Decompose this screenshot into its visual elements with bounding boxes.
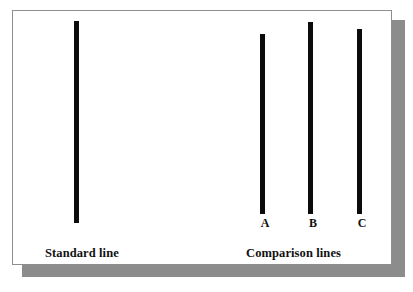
standard-line-caption: Standard line bbox=[45, 246, 119, 260]
comparison-line-bar-a bbox=[260, 34, 265, 214]
comparison-line-bar-b bbox=[308, 22, 313, 214]
stimulus-area: A B C Standard line Comparison lines bbox=[13, 11, 391, 264]
stimulus-card: A B C Standard line Comparison lines bbox=[12, 10, 392, 265]
comparison-line-label-b: B bbox=[303, 217, 323, 230]
comparison-line-label-a: A bbox=[255, 217, 275, 230]
comparison-line-bar-c bbox=[357, 29, 362, 214]
figure-root: A B C Standard line Comparison lines bbox=[0, 0, 413, 292]
standard-line-bar bbox=[74, 21, 79, 223]
comparison-lines-caption: Comparison lines bbox=[246, 246, 341, 260]
comparison-line-label-c: C bbox=[352, 217, 372, 230]
